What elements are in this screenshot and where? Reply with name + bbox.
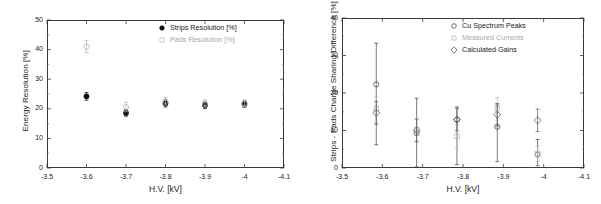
- x-tick-label: -3.9: [185, 173, 225, 180]
- legend-label: Measured Currents: [460, 32, 524, 44]
- x-tick-label: -3.7: [403, 173, 443, 180]
- legend-marker-open-diamond-icon: [448, 45, 460, 55]
- y-tick-label: 20: [19, 104, 43, 111]
- legend-right: Cu Spectrum PeaksMeasured CurrentsCalcul…: [448, 20, 526, 56]
- legend-entry[interactable]: Measured Currents: [448, 32, 526, 44]
- legend-label: Pads Resolution [%]: [168, 34, 235, 46]
- y-tick-label: 30: [19, 75, 43, 82]
- legend-marker-open-square-icon: [448, 33, 460, 43]
- x-tick-label: -4: [524, 173, 564, 180]
- legend-marker-open-circle-icon: [448, 21, 460, 31]
- legend-left: Strips Resolution [%]Pads Resolution [%]: [156, 22, 237, 46]
- y-tick-label: 10: [19, 134, 43, 141]
- x-tick-label: -4.1: [564, 173, 601, 180]
- y-tick-label: 20: [314, 89, 338, 96]
- x-tick-label: -3.8: [146, 173, 186, 180]
- y-tick-label: 0: [19, 164, 43, 171]
- y-tick-label: 30: [314, 51, 338, 58]
- y-tick-label: 40: [314, 14, 338, 21]
- legend-label: Strips Resolution [%]: [168, 22, 237, 34]
- figure-container: Energy Resolution [%] -3.5-3.6-3.7-3.8-3…: [0, 0, 601, 204]
- x-tick-label: -3.5: [322, 173, 362, 180]
- x-tick-label: -3.9: [483, 173, 523, 180]
- legend-marker-filled-circle-icon: [156, 23, 168, 33]
- x-tick-label: -4.1: [264, 173, 304, 180]
- legend-entry[interactable]: Pads Resolution [%]: [156, 34, 237, 46]
- x-tick-label: -3.5: [27, 173, 67, 180]
- series-cu-spectrum-peaks: [374, 43, 541, 167]
- legend-entry[interactable]: Calculated Gains: [448, 44, 526, 56]
- chart-panel-energy-resolution: Energy Resolution [%] -3.5-3.6-3.7-3.8-3…: [0, 0, 300, 204]
- series-pads-resolution: [84, 41, 247, 112]
- x-tick-label: -3.8: [443, 173, 483, 180]
- x-tick-label: -3.6: [362, 173, 402, 180]
- legend-entry[interactable]: Cu Spectrum Peaks: [448, 20, 526, 32]
- legend-label: Calculated Gains: [460, 44, 517, 56]
- legend-marker-open-circle-icon: [156, 35, 168, 45]
- x-tick-label: -3.7: [106, 173, 146, 180]
- legend-entry[interactable]: Strips Resolution [%]: [156, 22, 237, 34]
- x-tick-label: -3.6: [67, 173, 107, 180]
- chart-panel-charge-sharing: Strips - Pads Charge Sharing Difference …: [300, 0, 600, 204]
- x-axis-label-left: H.V. [kV]: [47, 184, 284, 194]
- x-tick-label: -4: [225, 173, 265, 180]
- y-tick-label: 50: [19, 16, 43, 23]
- y-tick-label: 10: [314, 126, 338, 133]
- legend-label: Cu Spectrum Peaks: [460, 20, 526, 32]
- y-tick-label: 40: [19, 45, 43, 52]
- y-tick-label: 0: [314, 164, 338, 171]
- x-axis-label-right: H.V. [kV]: [342, 184, 584, 194]
